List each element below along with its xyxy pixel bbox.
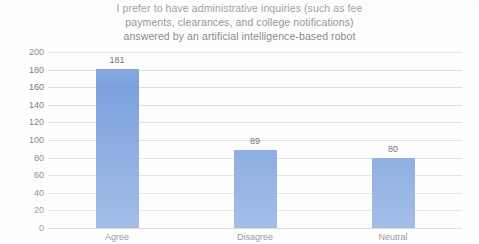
y-axis-tick-label: 180 (0, 65, 44, 74)
category-label-disagree: Disagree (210, 232, 300, 242)
y-axis-tick-label: 40 (0, 188, 44, 197)
y-axis-tick-label: 140 (0, 100, 44, 109)
bar-chart: I prefer to have administrative inquirie… (0, 0, 479, 244)
gridline (48, 228, 462, 229)
y-axis: 200180160140120100806040200 (0, 52, 44, 228)
category-label-neutral: Neutral (348, 232, 438, 242)
y-axis-tick-label: 100 (0, 136, 44, 145)
data-label-disagree: 89 (225, 137, 285, 146)
data-label-neutral: 80 (363, 145, 423, 154)
y-axis-tick-label: 80 (0, 153, 44, 162)
y-axis-tick-label: 60 (0, 171, 44, 180)
gridline (48, 52, 462, 53)
bar-disagree[interactable] (234, 150, 277, 228)
bar-agree[interactable] (96, 69, 139, 228)
y-axis-tick-label: 20 (0, 206, 44, 215)
category-label-agree: Agree (72, 232, 162, 242)
y-axis-tick-label: 160 (0, 83, 44, 92)
y-axis-tick-label: 120 (0, 118, 44, 127)
chart-title: I prefer to have administrative inquirie… (0, 1, 479, 44)
y-axis-tick-label: 0 (0, 224, 44, 233)
y-axis-tick-label: 200 (0, 48, 44, 57)
data-label-agree: 181 (87, 56, 147, 65)
bar-neutral[interactable] (372, 158, 415, 228)
